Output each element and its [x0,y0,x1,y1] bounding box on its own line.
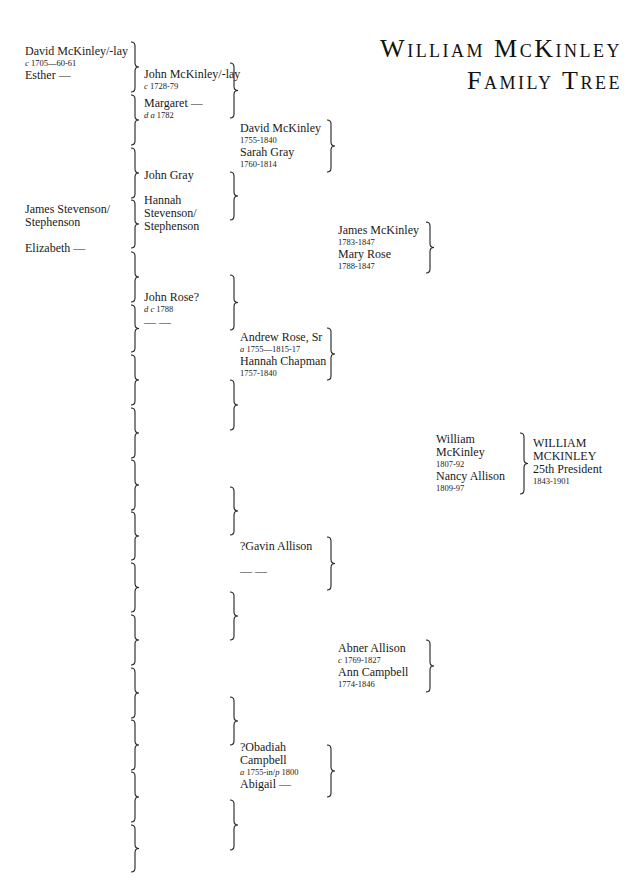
brace-connector [327,537,337,590]
date-qualifier: c [338,655,342,665]
brace-connector [230,172,240,220]
date-qualifier: c [144,81,148,91]
date-range: 1705—60-61 [31,58,76,68]
brace-connector [131,563,141,612]
subject-title: 25th President [533,463,602,476]
brace-connector [131,408,141,458]
brace-connector [131,42,141,92]
person-name: ?Gavin Allison [240,540,312,553]
person-esther: Esther — [25,69,128,82]
brace-connector [131,772,141,822]
person-dates: c 1728-79 [144,81,240,92]
person-james-mckinley: James McKinley 1783-1847 Mary Rose 1788-… [338,224,419,272]
date-qualifier: a [240,344,244,354]
date-qualifier-2: p [275,767,279,777]
person-name: Margaret — [144,97,203,110]
person-sarah-gray: Sarah Gray [240,146,321,159]
person-dates: 1760-1814 [240,159,321,170]
brace-connector [327,745,337,797]
brace-connector [426,222,436,273]
date-qualifier: c [25,58,29,68]
person-abner-allison: Abner Allison c 1769-1827 Ann Campbell 1… [338,642,408,690]
person-dates: d c 1788 [144,304,199,315]
brace-connector [131,720,141,770]
date-range: 1782 [157,110,174,120]
person-name-line-2: Stephenson [25,216,110,229]
date-qualifier: a [240,767,244,777]
person-andrew-rose: Andrew Rose, Sr a 1755—1815-17 Hannah Ch… [240,331,326,379]
brace-connector [131,668,141,718]
person-name-line-2: McKinley [436,446,505,459]
brace-connector [131,200,141,248]
person-name: John Gray [144,169,194,182]
person-david-mckinley-lay: David McKinley/-lay c 1705—60-61 Esther … [25,45,128,82]
brace-connector [230,275,240,330]
person-name: Elizabeth — [25,242,85,255]
person-name: David McKinley [240,122,321,135]
person-gavin-allison: ?Gavin Allison [240,540,312,553]
person-dates: 1774-1846 [338,679,408,690]
person-abigail: Abigail — [240,778,299,791]
person-name: — — [240,565,267,578]
person-dates: 1788-1847 [338,261,419,272]
person-ann-campbell: Ann Campbell [338,666,408,679]
brace-connector [327,120,337,172]
person-nancy-allison: Nancy Allison [436,470,505,483]
brace-connector [131,148,141,198]
subject-william-mckinley: WILLIAM MCKINLEY 25th President 1843-190… [533,437,602,487]
person-name: John McKinley/-lay [144,68,240,81]
person-name: John Rose? [144,291,199,304]
date-range: 1788 [156,304,173,314]
brace-connector [131,252,141,302]
person-william-mckinley-sr: William McKinley 1807-92 Nancy Allison 1… [436,433,505,494]
date-range: 1755-in/ [246,767,275,777]
brace-connector [230,592,240,640]
subject-dates: 1843-1901 [533,476,602,487]
brace-connector [230,697,240,745]
brace-connector [131,95,141,145]
person-david-mckinley: David McKinley 1755-1840 Sarah Gray 1760… [240,122,321,170]
person-name-line-3: Stephenson [144,220,199,233]
brace-connector [230,380,240,430]
person-obadiah-campbell: ?Obadiah Campbell a 1755-in/p 1800 Abiga… [240,741,299,791]
person-james-stevenson: James Stevenson/ Stephenson [25,203,110,229]
person-name: Andrew Rose, Sr [240,331,326,344]
person-john-mckinley-lay: John McKinley/-lay c 1728-79 [144,68,240,92]
person-mary-rose: Mary Rose [338,248,419,261]
person-gavin-spouse: — — [240,565,267,578]
person-name: James McKinley [338,224,419,237]
person-name: Abner Allison [338,642,408,655]
brace-connector [131,460,141,510]
brace-connector [520,433,530,494]
date-qualifier: d c [144,304,154,314]
brace-connector [230,487,240,535]
date-range: 1755—1815-17 [246,344,300,354]
title-line-1: William McKinley [380,34,622,64]
date-range-2: 1800 [282,767,299,777]
brace-connector [426,640,436,692]
person-john-rose: John Rose? d c 1788 — — [144,291,199,329]
title-line-2: Family Tree [467,66,622,96]
date-range: 1728-79 [150,81,178,91]
person-name: David McKinley/-lay [25,45,128,58]
brace-connector [131,355,141,405]
brace-connector [131,305,141,352]
person-hannah-chapman: Hannah Chapman [240,355,326,368]
person-dates: d a 1782 [144,110,203,121]
person-margaret: Margaret — d a 1782 [144,97,203,121]
person-dates: 1757-1840 [240,368,326,379]
person-dates: 1809-97 [436,483,505,494]
brace-connector [131,615,141,665]
brace-connector [327,328,337,380]
brace-connector [230,800,240,850]
brace-connector [131,512,141,560]
person-john-gray: John Gray [144,169,194,182]
brace-connector [131,825,141,872]
person-hannah-stevenson: Hannah Stevenson/ Stephenson [144,194,199,233]
person-name-line-2: Campbell [240,754,299,767]
date-qualifier: d a [144,110,155,120]
person-elizabeth: Elizabeth — [25,242,85,255]
person-unknown-spouse: — — [144,316,199,329]
date-range: 1769-1827 [344,655,381,665]
